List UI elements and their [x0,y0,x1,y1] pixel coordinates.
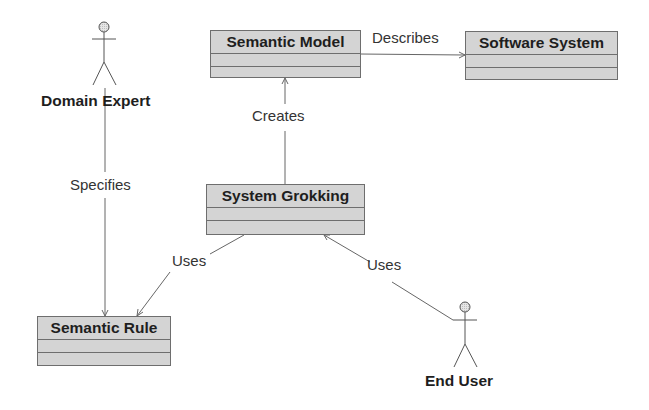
uses-grokking-label: Uses [367,256,401,273]
operations-compartment [211,67,360,79]
attributes-compartment [466,55,617,68]
system-grokking-class[interactable]: System Grokking [206,184,365,235]
semantic-model-class[interactable]: Semantic Model [210,30,361,78]
domain-expert-actor-icon[interactable] [92,22,116,85]
operations-compartment [207,221,364,233]
describes-label: Describes [372,29,439,46]
uses-rule-label: Uses [172,252,206,269]
attributes-compartment [211,54,360,67]
software-system-class[interactable]: Software System [465,31,618,80]
specifies-label: Specifies [70,176,131,193]
attributes-compartment [38,340,170,353]
creates-label: Creates [252,107,305,124]
creates-connector[interactable] [282,78,288,184]
end-user-label: End User [425,372,493,390]
domain-expert-label: Domain Expert [41,92,150,110]
class-name: System Grokking [207,185,364,208]
describes-connector[interactable] [360,52,465,58]
end-user-actor-icon[interactable] [453,302,477,367]
operations-compartment [38,353,170,365]
attributes-compartment [207,208,364,221]
uses-rule-connector[interactable] [137,235,244,316]
uses-grokking-connector[interactable] [324,235,453,320]
class-name: Semantic Rule [38,317,170,340]
class-name: Software System [466,32,617,55]
semantic-rule-class[interactable]: Semantic Rule [37,316,171,366]
operations-compartment [466,68,617,80]
specifies-connector[interactable] [102,88,108,316]
class-name: Semantic Model [211,31,360,54]
